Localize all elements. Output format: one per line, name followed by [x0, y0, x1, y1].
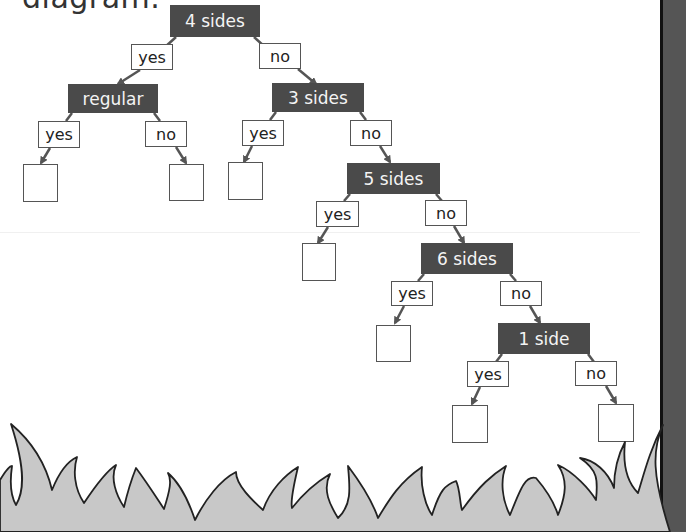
- grass-decoration: [0, 0, 686, 532]
